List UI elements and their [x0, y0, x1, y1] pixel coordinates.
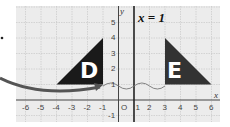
- x-axis-label: x: [213, 90, 218, 100]
- mirror-line-label: x = 1: [137, 10, 165, 25]
- svg-text:-4: -4: [53, 103, 61, 112]
- label-d: D: [80, 58, 98, 83]
- svg-text:-1: -1: [108, 111, 116, 120]
- svg-text:2: 2: [147, 103, 152, 112]
- svg-text:1: 1: [111, 80, 116, 89]
- svg-text:4: 4: [178, 103, 183, 112]
- svg-text:-1: -1: [99, 103, 107, 112]
- svg-text:-3: -3: [68, 103, 76, 112]
- label-e: E: [167, 58, 182, 83]
- svg-text:5: 5: [194, 103, 199, 112]
- svg-text:4: 4: [111, 33, 116, 42]
- svg-text:3: 3: [111, 49, 116, 58]
- svg-text:1: 1: [136, 103, 141, 112]
- y-axis-label: y: [119, 6, 124, 16]
- origin-label: O: [121, 103, 127, 112]
- coordinate-grid: D E -6-5-4 -3-2-1 234 56 1 O 543 21-1 y …: [0, 0, 230, 127]
- svg-text:-6: -6: [22, 103, 30, 112]
- bullet-dot: [1, 37, 4, 40]
- svg-text:-5: -5: [37, 103, 45, 112]
- svg-text:3: 3: [163, 103, 168, 112]
- svg-text:-2: -2: [84, 103, 92, 112]
- svg-text:5: 5: [111, 18, 116, 27]
- svg-text:6: 6: [209, 103, 214, 112]
- svg-text:2: 2: [111, 64, 116, 73]
